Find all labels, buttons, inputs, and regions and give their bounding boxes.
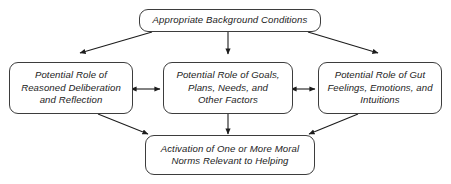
edge-right-to-bottom: [309, 114, 358, 134]
node-potential-role-reasoned-deliberation: Potential Role of Reasoned Deliberation …: [9, 62, 133, 114]
node-appropriate-background-conditions: Appropriate Background Conditions: [139, 9, 321, 32]
node-potential-role-gut-feelings-emotions: Potential Role of Gut Feelings, Emotions…: [318, 62, 442, 114]
node-label: Activation of One or More Moral Norms Re…: [161, 143, 300, 168]
edge-top-to-right: [308, 32, 378, 53]
edge-left-to-bottom: [98, 114, 148, 134]
node-label: Potential Role of Goals, Plans, Needs, a…: [176, 69, 279, 106]
node-potential-role-goals-plans-needs: Potential Role of Goals, Plans, Needs, a…: [163, 62, 293, 114]
flowchart-diagram: Appropriate Background Conditions Potent…: [0, 0, 451, 184]
node-label: Potential Role of Reasoned Deliberation …: [21, 69, 121, 106]
node-label: Potential Role of Gut Feelings, Emotions…: [327, 69, 432, 106]
edge-top-to-left: [80, 32, 152, 53]
node-label: Appropriate Background Conditions: [153, 14, 308, 26]
node-activation-moral-norms: Activation of One or More Moral Norms Re…: [145, 135, 315, 175]
